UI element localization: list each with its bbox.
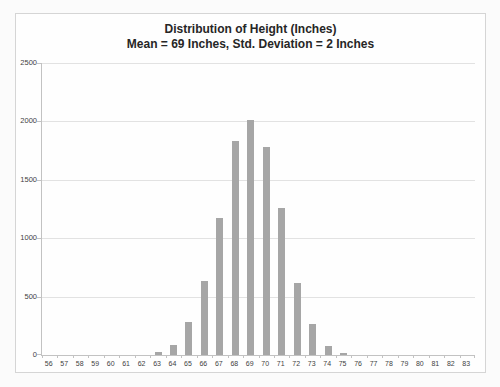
x-tick-label: 81	[428, 359, 444, 368]
bar	[278, 208, 285, 355]
y-axis-tick	[37, 63, 42, 64]
x-axis-tick	[57, 355, 58, 358]
chart-frame: Distribution of Height (Inches) Mean = 6…	[15, 13, 486, 373]
x-tick-label: 71	[273, 359, 289, 368]
plot-area	[41, 63, 475, 356]
x-tick-label: 61	[118, 359, 134, 368]
bar	[216, 218, 223, 355]
x-tick-label: 82	[443, 359, 459, 368]
x-tick-label: 69	[242, 359, 258, 368]
x-tick-label: 72	[288, 359, 304, 368]
y-tick-label: 2500	[20, 59, 37, 67]
y-axis-tick	[37, 180, 42, 181]
bar	[309, 324, 316, 355]
x-tick-label: 77	[366, 359, 382, 368]
y-axis-tick	[37, 238, 42, 239]
x-tick-label: 62	[134, 359, 150, 368]
x-tick-label: 78	[381, 359, 397, 368]
bar	[170, 345, 177, 355]
x-axis-tick	[351, 355, 352, 358]
x-axis-tick	[104, 355, 105, 358]
x-tick-label: 67	[211, 359, 227, 368]
x-axis-tick	[444, 355, 445, 358]
x-axis-tick	[413, 355, 414, 358]
x-tick-label: 68	[227, 359, 243, 368]
y-tick-label: 500	[24, 293, 37, 301]
x-axis-tick	[336, 355, 337, 358]
gridline	[42, 297, 475, 298]
chart-subtitle: Mean = 69 Inches, Std. Deviation = 2 Inc…	[16, 37, 485, 52]
x-axis-tick	[212, 355, 213, 358]
bar	[185, 322, 192, 355]
y-axis-tick	[37, 121, 42, 122]
x-axis-tick	[460, 355, 461, 358]
x-tick-label: 65	[180, 359, 196, 368]
x-axis-tick	[42, 355, 43, 358]
x-tick-label: 60	[103, 359, 119, 368]
gridline	[42, 180, 475, 181]
bar	[232, 141, 239, 355]
bar	[263, 147, 270, 355]
x-axis-tick	[398, 355, 399, 358]
x-axis-tick	[367, 355, 368, 358]
chart-title: Distribution of Height (Inches)	[16, 22, 485, 37]
gridline	[42, 121, 475, 122]
x-tick-label: 79	[397, 359, 413, 368]
y-tick-label: 0	[33, 351, 37, 359]
x-tick-label: 76	[350, 359, 366, 368]
x-axis-tick	[320, 355, 321, 358]
x-tick-label: 64	[165, 359, 181, 368]
x-axis-tick	[135, 355, 136, 358]
y-axis-labels: 05001000150020002500	[16, 63, 37, 355]
x-tick-label: 73	[304, 359, 320, 368]
bar	[201, 281, 208, 355]
bar	[340, 353, 347, 355]
x-tick-label: 80	[412, 359, 428, 368]
x-axis-tick	[289, 355, 290, 358]
y-tick-label: 1500	[20, 176, 37, 184]
x-tick-label: 59	[87, 359, 103, 368]
chart-title-block: Distribution of Height (Inches) Mean = 6…	[16, 22, 485, 52]
x-axis-tick	[382, 355, 383, 358]
x-axis-tick	[474, 355, 475, 358]
bar	[247, 120, 254, 355]
x-tick-label: 83	[459, 359, 475, 368]
x-axis-labels: 5657585960616263646566676869707172737475…	[41, 359, 474, 368]
y-tick-label: 1000	[20, 234, 37, 242]
x-tick-label: 75	[335, 359, 351, 368]
x-axis-tick	[429, 355, 430, 358]
y-axis-tick	[37, 297, 42, 298]
x-axis-tick	[197, 355, 198, 358]
x-axis-tick	[119, 355, 120, 358]
x-axis-tick	[305, 355, 306, 358]
x-tick-label: 63	[149, 359, 165, 368]
y-tick-label: 2000	[20, 117, 37, 125]
x-axis-tick	[73, 355, 74, 358]
x-tick-label: 74	[319, 359, 335, 368]
bar	[155, 352, 162, 355]
x-axis-tick	[166, 355, 167, 358]
gridline	[42, 63, 475, 64]
x-axis-tick	[88, 355, 89, 358]
chart-screenshot: Distribution of Height (Inches) Mean = 6…	[0, 0, 500, 387]
x-tick-label: 57	[57, 359, 73, 368]
x-tick-label: 66	[196, 359, 212, 368]
x-axis-tick	[150, 355, 151, 358]
gridline	[42, 238, 475, 239]
x-tick-label: 56	[41, 359, 57, 368]
bar	[325, 346, 332, 355]
x-axis-tick	[228, 355, 229, 358]
x-tick-label: 70	[258, 359, 274, 368]
x-axis-tick	[274, 355, 275, 358]
x-axis-tick	[259, 355, 260, 358]
x-tick-label: 58	[72, 359, 88, 368]
x-axis-tick	[181, 355, 182, 358]
bar	[294, 283, 301, 355]
x-axis-tick	[243, 355, 244, 358]
